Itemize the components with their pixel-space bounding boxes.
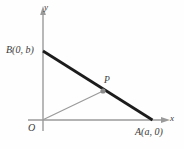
origin-label: O xyxy=(28,123,35,133)
segment-BA xyxy=(43,51,153,120)
point-A-label: A(a, 0) xyxy=(135,127,163,137)
y-axis xyxy=(40,6,46,131)
x-axis-label: x xyxy=(170,114,174,123)
segment-OP xyxy=(44,91,104,120)
point-P-marker xyxy=(100,88,105,93)
y-axis-label: y xyxy=(44,3,48,12)
point-B-label: B(0, b) xyxy=(6,45,34,55)
coordinate-figure: y x O B(0, b) A(a, 0) P xyxy=(0,0,184,149)
x-axis-arrowhead-icon xyxy=(161,117,170,123)
point-P-label: P xyxy=(104,76,110,86)
